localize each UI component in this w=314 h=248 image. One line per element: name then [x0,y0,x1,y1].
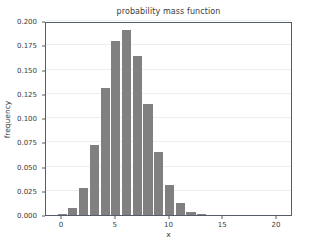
y-tick-label: 0.125 [17,91,37,99]
bar-series [46,23,291,215]
y-tick-label: 0.075 [17,139,37,147]
x-tick-label: 5 [113,221,117,229]
x-tick-mark [222,216,223,219]
bar [111,41,120,215]
x-tick-label: 20 [271,221,280,229]
bar [186,212,195,215]
chart-title: probability mass function [45,7,292,16]
x-tick-mark [114,216,115,219]
bar [79,188,88,215]
chart-figure: probability mass function frequency 0.00… [0,0,314,248]
bar [154,152,163,215]
bar [58,214,67,215]
x-tick-label: 0 [59,221,63,229]
y-tick-label: 0.100 [17,115,37,123]
bar [197,214,206,215]
y-tick-label: 0.025 [17,188,37,196]
x-tick-mark [168,216,169,219]
bar [176,203,185,215]
y-tick-label: 0.000 [17,212,37,220]
y-axis-ticks: 0.0000.0250.0500.0750.1000.1250.1500.175… [0,22,45,216]
y-tick-label: 0.200 [17,18,37,26]
x-tick-mark [275,216,276,219]
bar [122,30,131,215]
x-tick-mark [61,216,62,219]
gridline [46,20,291,21]
y-tick-label: 0.175 [17,42,37,50]
plot-area [45,22,292,216]
bar [133,56,142,215]
x-tick-label: 10 [164,221,173,229]
x-axis-label: x [45,230,292,239]
bar [68,208,77,215]
y-tick-label: 0.150 [17,67,37,75]
x-tick-label: 15 [218,221,227,229]
y-tick-label: 0.050 [17,164,37,172]
bar [165,185,174,215]
bar [90,145,99,215]
bar [101,88,110,215]
bar [143,104,152,215]
